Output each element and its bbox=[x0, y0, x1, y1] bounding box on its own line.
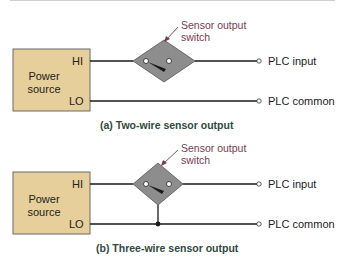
plc-input-label: PLC input bbox=[268, 55, 316, 67]
callout-line1: Sensor output bbox=[181, 19, 246, 31]
junction-dot bbox=[156, 222, 161, 227]
power-source-label: Power source bbox=[20, 70, 68, 96]
plc-input-terminal bbox=[257, 182, 261, 186]
lo-label: LO bbox=[69, 218, 84, 230]
caption-b: (b) Three-wire sensor output bbox=[96, 242, 238, 254]
power-source-label-line1: Power bbox=[20, 70, 68, 83]
plc-common-terminal bbox=[257, 99, 261, 103]
hi-label: HI bbox=[72, 55, 83, 67]
plc-input-label: PLC input bbox=[268, 178, 316, 190]
callout-line2: switch bbox=[181, 154, 246, 166]
plc-common-label: PLC common bbox=[268, 95, 335, 107]
lo-label: LO bbox=[69, 95, 84, 107]
plc-common-terminal bbox=[257, 222, 261, 226]
callout-line1: Sensor output bbox=[181, 142, 246, 154]
sensor-switch-icon bbox=[133, 40, 195, 82]
power-source-label: Power source bbox=[20, 193, 68, 219]
hi-label: HI bbox=[72, 178, 83, 190]
caption-a: (a) Two-wire sensor output bbox=[100, 119, 233, 131]
power-source-label-line2: source bbox=[20, 83, 68, 96]
sensor-switch-callout: Sensor output switch bbox=[181, 19, 246, 43]
power-source-label-line1: Power bbox=[20, 193, 68, 206]
callout-line2: switch bbox=[181, 31, 246, 43]
power-source-label-line2: source bbox=[20, 206, 68, 219]
plc-common-label: PLC common bbox=[268, 218, 335, 230]
sensor-switch-icon bbox=[133, 163, 183, 205]
plc-input-terminal bbox=[257, 59, 261, 63]
sensor-switch-callout: Sensor output switch bbox=[181, 142, 246, 166]
